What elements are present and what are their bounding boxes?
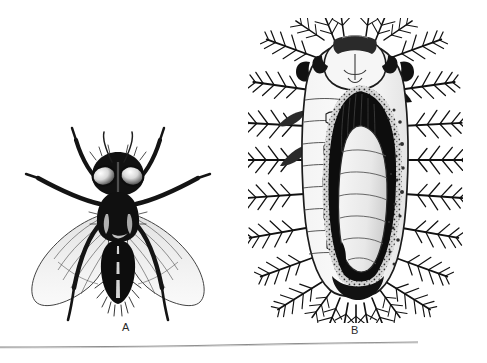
page-edge-rule	[0, 336, 487, 354]
inner-segmented-mass	[339, 126, 388, 272]
fly-drawing	[18, 122, 218, 322]
figure-label-b: B	[351, 325, 359, 336]
illustration-plate: Adult fly shown in dorsal view with outs…	[0, 0, 487, 363]
figure-a-adult-fly: Adult fly shown in dorsal view with outs…	[18, 122, 218, 322]
fly-head	[90, 132, 146, 196]
figure-label-a: A	[122, 322, 130, 333]
figure-b-larva: Dorsal view of a larva or nymph with a b…	[248, 18, 463, 323]
larva-drawing	[248, 18, 463, 323]
